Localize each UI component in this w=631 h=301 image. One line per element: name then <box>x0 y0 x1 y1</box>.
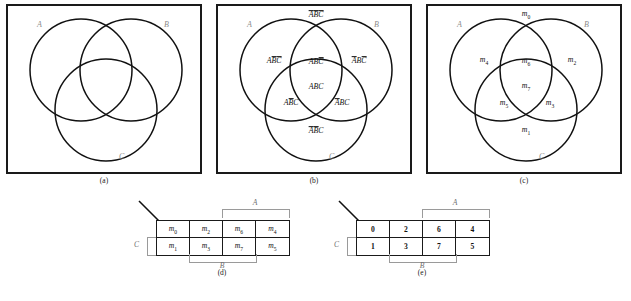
set-label-b: B <box>164 21 169 29</box>
kmap-cell[interactable]: m1 <box>157 238 190 255</box>
region-label-b-only: ABC <box>352 56 367 66</box>
minterm-label-a-and-b-and-c: m7 <box>522 81 530 93</box>
venn-panel-c: A B C m0 m4 m6 m2 m7 m5 m3 m1 (c) <box>426 4 622 174</box>
set-label-b: B <box>374 21 379 29</box>
minterm-label-outside-all: m0 <box>522 9 530 21</box>
panel-caption-b: (b) <box>216 176 412 185</box>
set-label-c: C <box>539 153 544 161</box>
kmap-cell[interactable]: 6 <box>423 221 456 238</box>
kmap-cell[interactable]: 7 <box>423 238 456 255</box>
minterm-label-b-and-c-only: m3 <box>546 98 554 110</box>
set-label-a: A <box>457 21 462 29</box>
kmap-cell[interactable]: m2 <box>190 221 223 238</box>
region-label-outside-all: ABC <box>309 10 324 20</box>
minterm-label-a-and-b-only: m6 <box>522 56 530 68</box>
set-label-a: A <box>247 21 252 29</box>
minterm-label-b-only: m2 <box>568 55 576 67</box>
kmap-top-bracket-a <box>422 209 490 218</box>
kmap-left-bracket-c <box>347 237 356 256</box>
region-label-a-and-b-and-c: ABC <box>309 82 324 92</box>
kmap-caption-e: (e) <box>356 268 488 277</box>
kmap-cell[interactable]: 1 <box>357 238 390 255</box>
venn-panel-a: A B C (a) <box>6 4 202 174</box>
region-label-b-and-c-only: ABC <box>335 98 350 108</box>
kmap-caption-d: (d) <box>156 268 288 277</box>
region-label-a-and-b-only: ABC <box>309 57 324 67</box>
kmap-cell[interactable]: 3 <box>390 238 423 255</box>
region-label-a-and-c-only: ABC <box>284 98 299 108</box>
set-label-a: A <box>37 21 42 29</box>
panel-caption-a: (a) <box>6 176 202 185</box>
region-label-c-only: ABC <box>309 126 324 136</box>
kmap-cell[interactable]: m6 <box>223 221 256 238</box>
kmap-top-label-a: A <box>422 198 488 207</box>
kmap-cell[interactable]: 0 <box>357 221 390 238</box>
kmap-top-label-a: A <box>222 198 288 207</box>
minterm-label-a-and-c-only: m5 <box>500 98 508 110</box>
kmap-corner-diagonal-icon <box>338 200 360 222</box>
minterm-label-c-only: m1 <box>522 125 530 137</box>
set-label-c: C <box>329 153 334 161</box>
kmap-left-label-c: C <box>134 240 139 249</box>
region-label-a-only: ABC <box>267 56 282 66</box>
kmap-corner-diagonal-icon <box>138 200 160 222</box>
kmap-cell[interactable]: m4 <box>256 221 289 238</box>
panel-caption-c: (c) <box>426 176 622 185</box>
kmap-cell[interactable]: m7 <box>223 238 256 255</box>
kmap-cell[interactable]: 5 <box>456 238 489 255</box>
venn-circles-a <box>6 4 202 174</box>
kmap-grid-d: m0 m2 m6 m4 m1 m3 m7 m5 <box>156 220 290 256</box>
kmap-cell[interactable]: m3 <box>190 238 223 255</box>
set-label-c: C <box>119 153 124 161</box>
venn-panel-b: A B C ABC ABC ABC ABC ABC ABC ABC ABC (b… <box>216 4 412 174</box>
kmap-cell[interactable]: 4 <box>456 221 489 238</box>
kmap-top-bracket-a <box>222 209 290 218</box>
kmap-grid-e: 0 2 6 4 1 3 7 5 <box>356 220 490 256</box>
set-label-b: B <box>584 21 589 29</box>
kmap-left-label-c: C <box>334 240 339 249</box>
kmap-cell[interactable]: 2 <box>390 221 423 238</box>
kmap-left-bracket-c <box>147 237 156 256</box>
minterm-label-a-only: m4 <box>480 55 488 67</box>
kmap-cell[interactable]: m0 <box>157 221 190 238</box>
kmap-cell[interactable]: m5 <box>256 238 289 255</box>
